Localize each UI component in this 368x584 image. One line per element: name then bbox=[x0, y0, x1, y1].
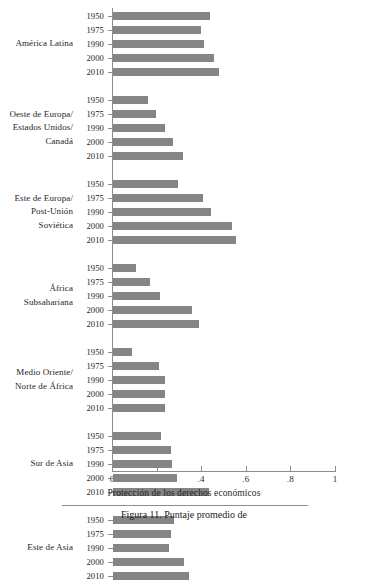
bar-row: 2010 bbox=[0, 318, 368, 332]
bar-row: 1950 bbox=[0, 262, 368, 276]
year-label: 2010 bbox=[78, 402, 104, 414]
bar bbox=[113, 194, 203, 202]
year-label: 1975 bbox=[78, 192, 104, 204]
year-label: 1975 bbox=[78, 24, 104, 36]
bar-row: 2000 bbox=[0, 556, 368, 570]
bar bbox=[113, 362, 159, 370]
bar-row: 1950 bbox=[0, 346, 368, 360]
bar bbox=[113, 222, 232, 230]
bar bbox=[113, 572, 189, 580]
year-label: 1990 bbox=[78, 122, 104, 134]
bar bbox=[113, 12, 210, 20]
bar bbox=[113, 40, 204, 48]
bar bbox=[113, 180, 178, 188]
bar-row: 1950 bbox=[0, 10, 368, 24]
year-label: 2000 bbox=[78, 52, 104, 64]
group-label: Sur de Asia bbox=[0, 457, 73, 471]
caption-divider bbox=[62, 505, 308, 506]
bar bbox=[113, 446, 171, 454]
year-label: 2010 bbox=[78, 318, 104, 330]
year-label: 1950 bbox=[78, 94, 104, 106]
bar bbox=[113, 306, 192, 314]
year-label: 2000 bbox=[78, 388, 104, 400]
year-label: 2000 bbox=[78, 136, 104, 148]
year-label: 2000 bbox=[78, 472, 104, 484]
year-label: 2010 bbox=[78, 66, 104, 78]
bar bbox=[113, 96, 148, 104]
year-label: 1990 bbox=[78, 458, 104, 470]
x-axis-label: Protección de los derechos económicos bbox=[0, 488, 368, 498]
bar bbox=[113, 460, 172, 468]
year-label: 2010 bbox=[78, 150, 104, 162]
bar bbox=[113, 208, 211, 216]
group-label: Este de Asia bbox=[0, 541, 73, 555]
year-label: 1975 bbox=[78, 444, 104, 456]
bar bbox=[113, 292, 160, 300]
group-label: África Subsahariana bbox=[0, 282, 73, 309]
bar bbox=[113, 544, 169, 552]
year-label: 1975 bbox=[78, 108, 104, 120]
year-label: 1975 bbox=[78, 360, 104, 372]
year-label: 1950 bbox=[78, 10, 104, 22]
group-label: Este de Europa/ Post-Unión Soviética bbox=[0, 192, 73, 233]
bar-row: 1950 bbox=[0, 178, 368, 192]
bar bbox=[113, 320, 199, 328]
bar bbox=[113, 54, 214, 62]
bar-row: 2010 bbox=[0, 402, 368, 416]
bar-row: 1975 bbox=[0, 24, 368, 38]
bar bbox=[113, 152, 183, 160]
bar bbox=[113, 264, 136, 272]
year-label: 1990 bbox=[78, 374, 104, 386]
bar bbox=[113, 432, 161, 440]
bar bbox=[113, 348, 132, 356]
year-label: 2010 bbox=[78, 570, 104, 582]
figure-caption: Figura 11. Puntaje promedio de bbox=[0, 509, 368, 520]
year-label: 1975 bbox=[78, 528, 104, 540]
group-label: Medio Oriente/ Norte de África bbox=[0, 366, 73, 393]
year-label: 1990 bbox=[78, 290, 104, 302]
bar-row: 1975 bbox=[0, 444, 368, 458]
year-label: 2000 bbox=[78, 556, 104, 568]
year-label: 1950 bbox=[78, 346, 104, 358]
group-label: Oeste de Europa/ Estados Unidos/ Canadá bbox=[0, 108, 73, 149]
bar bbox=[113, 236, 236, 244]
year-label: 2000 bbox=[78, 220, 104, 232]
bar bbox=[113, 138, 173, 146]
year-label: 1950 bbox=[78, 178, 104, 190]
bar-row: 2010 bbox=[0, 66, 368, 80]
bar-row: 2000 bbox=[0, 472, 368, 486]
bar bbox=[113, 68, 219, 76]
bar bbox=[113, 530, 171, 538]
bar bbox=[113, 26, 201, 34]
year-label: 1950 bbox=[78, 430, 104, 442]
bar-row: 1950 bbox=[0, 94, 368, 108]
bar bbox=[113, 376, 165, 384]
bar bbox=[113, 404, 165, 412]
bar bbox=[113, 474, 177, 482]
bar bbox=[113, 558, 184, 566]
bar bbox=[113, 390, 165, 398]
bar-row: 2010 bbox=[0, 234, 368, 248]
year-label: 2010 bbox=[78, 234, 104, 246]
year-label: 1950 bbox=[78, 262, 104, 274]
year-label: 1990 bbox=[78, 38, 104, 50]
bar bbox=[113, 278, 150, 286]
year-label: 1975 bbox=[78, 276, 104, 288]
year-label: 2000 bbox=[78, 304, 104, 316]
year-label: 1990 bbox=[78, 542, 104, 554]
bar-row: 2000 bbox=[0, 52, 368, 66]
bar-row: 2010 bbox=[0, 570, 368, 584]
bar-row: 1975 bbox=[0, 528, 368, 542]
year-label: 1990 bbox=[78, 206, 104, 218]
bar bbox=[113, 124, 165, 132]
bar-row: 1950 bbox=[0, 430, 368, 444]
bar-row: 2010 bbox=[0, 150, 368, 164]
group-label: América Latina bbox=[0, 37, 73, 51]
bar bbox=[113, 110, 156, 118]
